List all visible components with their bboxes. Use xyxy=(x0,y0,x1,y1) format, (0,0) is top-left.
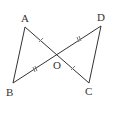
segment-bd xyxy=(13,26,101,83)
segment-ab xyxy=(13,27,25,83)
label-a: A xyxy=(21,12,29,24)
label-b: B xyxy=(6,86,13,98)
geometry-diagram: A D B C O xyxy=(0,0,113,113)
label-o: O xyxy=(53,59,61,71)
segment-dc xyxy=(89,26,101,83)
label-c: C xyxy=(85,85,92,97)
label-d: D xyxy=(97,11,105,23)
